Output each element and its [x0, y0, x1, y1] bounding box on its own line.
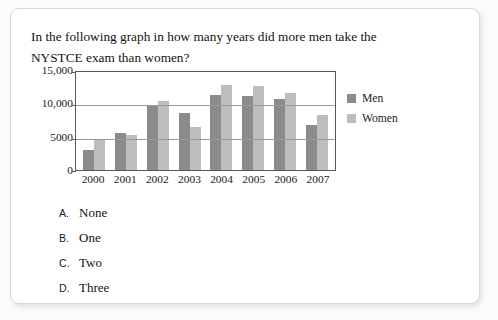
bar-group	[147, 72, 169, 170]
bar-women-2001	[126, 135, 137, 170]
legend-swatch-men	[347, 94, 356, 103]
option-text: Two	[79, 255, 102, 271]
x-axis-tick-label: 2000	[78, 172, 108, 186]
legend-label: Men	[362, 93, 383, 105]
bar-group	[115, 72, 137, 170]
option-letter: B.	[59, 232, 79, 244]
bar-women-2005	[253, 86, 264, 170]
bar-women-2004	[221, 85, 232, 170]
option-text: None	[79, 205, 107, 221]
x-axis-tick-label: 2002	[142, 172, 172, 186]
answer-option-three[interactable]: D.Three	[59, 280, 109, 296]
option-text: One	[79, 230, 101, 246]
bar-women-2000	[94, 140, 105, 170]
gridline	[76, 139, 335, 140]
bar-men-2007	[306, 125, 317, 170]
legend-swatch-women	[347, 114, 356, 123]
bar-men-2002	[147, 105, 158, 170]
x-axis-tick-label: 2003	[174, 172, 204, 186]
chart-legend: MenWomen	[347, 93, 398, 132]
bar-men-2006	[274, 99, 285, 170]
gridline	[76, 105, 335, 106]
question-card: In the following graph in how many years…	[10, 8, 480, 304]
option-text: Three	[79, 280, 109, 296]
y-axis-tick-mark	[72, 72, 76, 73]
plot-area	[75, 71, 336, 171]
bar-group	[306, 72, 328, 170]
x-axis-tick-label: 2007	[303, 172, 333, 186]
y-axis-tick-label: 10,000	[42, 99, 73, 110]
bar-group	[179, 72, 201, 170]
bar-group	[83, 72, 105, 170]
bar-women-2002	[158, 101, 169, 170]
x-axis: 20002001200220032004200520062007	[75, 172, 336, 186]
answer-option-one[interactable]: B.One	[59, 230, 109, 246]
bar-group	[242, 72, 264, 170]
y-axis-tick-label: 15,000	[42, 65, 73, 76]
x-axis-tick-label: 2006	[271, 172, 301, 186]
bar-women-2003	[190, 127, 201, 170]
option-letter: C.	[59, 257, 79, 269]
bar-group	[274, 72, 296, 170]
x-axis-tick-label: 2004	[207, 172, 237, 186]
bar-men-2003	[179, 113, 190, 170]
y-axis: 0500010,00015,000	[27, 71, 73, 171]
legend-item-men: Men	[347, 93, 398, 105]
bar-women-2007	[317, 115, 328, 170]
page-root: In the following graph in how many years…	[0, 0, 498, 320]
bar-men-2000	[83, 150, 94, 170]
bar-chart: 0500010,00015,000 2000200120022003200420…	[27, 71, 447, 193]
bar-men-2005	[242, 96, 253, 170]
option-letter: D.	[59, 282, 79, 294]
option-letter: A.	[59, 207, 79, 219]
answer-options: A.NoneB.OneC.TwoD.Three	[59, 205, 109, 305]
answer-option-two[interactable]: C.Two	[59, 255, 109, 271]
question-text: In the following graph in how many years…	[31, 26, 381, 68]
x-axis-tick-label: 2005	[239, 172, 269, 186]
bar-women-2006	[285, 93, 296, 170]
legend-item-women: Women	[347, 113, 398, 125]
bar-group	[210, 72, 232, 170]
y-axis-tick-label: 5000	[50, 132, 73, 143]
answer-option-none[interactable]: A.None	[59, 205, 109, 221]
legend-label: Women	[362, 113, 398, 125]
x-axis-tick-label: 2001	[110, 172, 140, 186]
bar-groups	[76, 72, 335, 170]
